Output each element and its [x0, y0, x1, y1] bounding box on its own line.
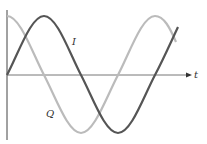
diagram-svg: I Q t [0, 0, 207, 144]
t-axis-label: t [194, 69, 199, 80]
i-curve-label: I [71, 36, 77, 47]
axis-arrow-icon [186, 73, 192, 78]
q-curve-label: Q [46, 108, 54, 119]
iq-waveform-diagram: I Q t [0, 0, 207, 144]
